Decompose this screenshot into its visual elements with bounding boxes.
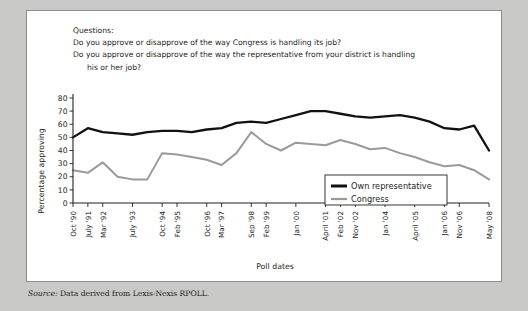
chart-plot: 01020304050607080Oct '90July '91Mar '92J… bbox=[27, 11, 503, 283]
svg-text:80: 80 bbox=[58, 94, 68, 103]
svg-text:Sep '98: Sep '98 bbox=[247, 211, 256, 238]
svg-text:50: 50 bbox=[58, 133, 68, 142]
svg-text:Feb '99: Feb '99 bbox=[262, 211, 271, 238]
svg-text:Feb '02: Feb '02 bbox=[336, 211, 345, 237]
chart-legend: Own representativeCongress bbox=[325, 175, 447, 205]
legend-label-1: Congress bbox=[351, 194, 389, 204]
svg-text:Jan '00: Jan '00 bbox=[292, 211, 301, 237]
x-axis-title: Poll dates bbox=[256, 262, 294, 271]
svg-text:Nov '02: Nov '02 bbox=[351, 211, 360, 238]
svg-text:Oct '94: Oct '94 bbox=[158, 211, 167, 237]
svg-text:60: 60 bbox=[58, 120, 68, 129]
svg-text:Mar '97: Mar '97 bbox=[217, 211, 226, 238]
source-label: Source: bbox=[28, 289, 58, 298]
svg-text:0: 0 bbox=[63, 199, 68, 208]
svg-text:April '01: April '01 bbox=[321, 211, 330, 241]
figure-card: Questions: Do you approve or disapprove … bbox=[26, 10, 502, 282]
svg-text:July '93: July '93 bbox=[128, 211, 137, 238]
svg-text:10: 10 bbox=[58, 186, 68, 195]
svg-text:Jan '06: Jan '06 bbox=[440, 211, 449, 237]
source-text: Data derived from Lexis-Nexis RPOLL. bbox=[60, 289, 209, 298]
series-line-congress bbox=[73, 132, 489, 179]
source-note: Source: Data derived from Lexis-Nexis RP… bbox=[28, 289, 209, 298]
svg-text:Oct '96: Oct '96 bbox=[203, 211, 212, 237]
svg-text:Nov '06: Nov '06 bbox=[455, 211, 464, 239]
y-axis-title: Percentage approving bbox=[37, 128, 46, 214]
series-line-own-representative bbox=[73, 111, 489, 150]
legend-label-0: Own representative bbox=[351, 181, 432, 191]
series-layer bbox=[73, 111, 489, 179]
svg-text:Jan '04: Jan '04 bbox=[381, 211, 390, 237]
svg-text:Mar '92: Mar '92 bbox=[99, 211, 108, 238]
svg-text:May '08: May '08 bbox=[485, 211, 494, 240]
svg-text:40: 40 bbox=[58, 146, 68, 155]
axes-layer: 01020304050607080Oct '90July '91Mar '92J… bbox=[58, 94, 494, 241]
svg-text:20: 20 bbox=[58, 172, 68, 181]
line-chart-svg: 01020304050607080Oct '90July '91Mar '92J… bbox=[27, 11, 503, 283]
svg-text:Oct '90: Oct '90 bbox=[69, 211, 78, 237]
svg-text:30: 30 bbox=[58, 159, 68, 168]
svg-text:July '91: July '91 bbox=[84, 211, 93, 238]
svg-text:70: 70 bbox=[58, 107, 68, 116]
svg-text:Feb '95: Feb '95 bbox=[173, 211, 182, 237]
svg-text:April '05: April '05 bbox=[411, 211, 420, 241]
